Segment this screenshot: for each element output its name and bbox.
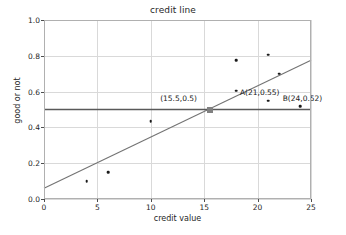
plot-area: (15.5,0.5)A(21,0.55)B(24,0.52) (44, 20, 311, 199)
x-tick-label: 10 (146, 203, 156, 212)
data-point (267, 54, 270, 57)
y-tick-label: 0.0 (28, 195, 40, 204)
chart-figure: credit line (15.5,0.5)A(21,0.55)B(24,0.5… (0, 0, 346, 235)
y-axis: 0.00.20.40.60.81.0 (44, 20, 45, 199)
point-annotation: (15.5,0.5) (160, 93, 197, 102)
y-tick (41, 56, 44, 57)
point-annotation: B(24,0.52) (283, 93, 323, 102)
x-tick (44, 199, 45, 202)
data-point (150, 120, 153, 123)
x-tick-label: 0 (42, 203, 47, 212)
point-annotation: A(21,0.55) (240, 87, 280, 96)
y-tick-label: 0.2 (28, 159, 40, 168)
x-tick-label: 25 (306, 203, 316, 212)
regression-line (44, 60, 311, 188)
x-axis: 0510152025 (44, 199, 311, 215)
x-tick (151, 199, 152, 202)
y-tick (41, 92, 44, 93)
x-tick (258, 199, 259, 202)
x-axis-label: credit value (44, 214, 311, 223)
data-point (85, 180, 88, 183)
y-axis-label: good or not (13, 51, 22, 151)
data-point (299, 105, 302, 108)
x-tick (204, 199, 205, 202)
y-tick (41, 163, 44, 164)
x-tick-label: 15 (199, 203, 209, 212)
intersection-marker (207, 107, 213, 113)
data-point (107, 171, 110, 174)
data-point (235, 89, 238, 92)
x-tick (97, 199, 98, 202)
data-point (278, 72, 281, 75)
data-point (267, 99, 270, 102)
plot-lines (44, 20, 311, 199)
y-tick-label: 0.4 (28, 123, 40, 132)
x-tick (311, 199, 312, 202)
y-tick-label: 0.6 (28, 87, 40, 96)
y-tick-label: 0.8 (28, 51, 40, 60)
y-tick (41, 127, 44, 128)
y-tick-label: 1.0 (28, 16, 40, 25)
x-tick-label: 5 (95, 203, 100, 212)
gridline-vertical (311, 20, 312, 199)
data-point (235, 59, 238, 62)
chart-title: credit line (0, 5, 346, 15)
x-tick-label: 20 (253, 203, 263, 212)
y-tick (41, 199, 44, 200)
y-tick (41, 20, 44, 21)
